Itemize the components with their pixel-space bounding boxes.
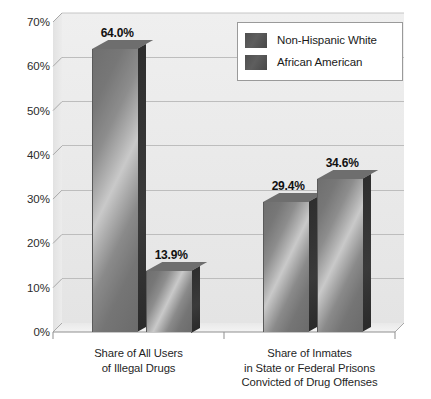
legend-item-label: Non-Hispanic White bbox=[277, 34, 377, 46]
legend-swatch-icon bbox=[245, 55, 267, 70]
x-axis-label-share-of-inmates: Share of Inmates in State or Federal Pri… bbox=[224, 346, 395, 390]
legend-item-african-american[interactable]: African American bbox=[245, 51, 395, 73]
bar-front-face bbox=[263, 202, 309, 332]
bar-side-face bbox=[137, 44, 146, 332]
y-tick-label-40: 40% bbox=[27, 149, 50, 161]
bar-white-inmates[interactable]: 29.4% bbox=[263, 202, 308, 332]
x-axis-label-line: Share of All Users bbox=[53, 346, 224, 361]
x-axis-label-share-of-all-users: Share of All Users of Illegal Drugs bbox=[53, 346, 224, 375]
bar-value-label: 64.0% bbox=[101, 26, 134, 40]
y-axis: 70% 60% 50% 40% 30% 20% 10% 0% bbox=[0, 0, 60, 340]
legend-swatch-icon bbox=[245, 33, 267, 48]
y-tick-label-30: 30% bbox=[27, 193, 50, 205]
x-axis-label-line: Share of Inmates bbox=[224, 346, 395, 361]
legend: Non-Hispanic White African American bbox=[237, 22, 403, 81]
bar-chart: 70% 60% 50% 40% 30% 20% 10% 0% 64.0% 13.… bbox=[0, 0, 431, 399]
x-axis-label-line: of Illegal Drugs bbox=[53, 361, 224, 376]
x-axis-label-line: Convicted of Drug Offenses bbox=[224, 375, 395, 390]
bar-front-face bbox=[317, 179, 363, 332]
y-tick-label-0: 0% bbox=[33, 326, 50, 338]
bar-front-face bbox=[92, 49, 138, 332]
x-axis-label-line: in State or Federal Prisons bbox=[224, 361, 395, 376]
bar-side-face bbox=[362, 174, 371, 332]
bar-black-users[interactable]: 13.9% bbox=[146, 271, 191, 333]
bar-value-label: 29.4% bbox=[272, 179, 305, 193]
y-tick-label-50: 50% bbox=[27, 105, 50, 117]
bar-black-inmates[interactable]: 34.6% bbox=[317, 179, 362, 332]
bar-front-face bbox=[146, 271, 192, 333]
legend-item-label: African American bbox=[277, 56, 362, 68]
x-axis-labels: Share of All Users of Illegal Drugs Shar… bbox=[0, 340, 431, 399]
y-tick-label-60: 60% bbox=[27, 60, 50, 72]
bar-side-face bbox=[191, 266, 200, 332]
y-tick-label-70: 70% bbox=[27, 16, 50, 28]
legend-item-non-hispanic-white[interactable]: Non-Hispanic White bbox=[245, 29, 395, 51]
bar-value-label: 13.9% bbox=[155, 248, 188, 262]
bar-side-face bbox=[308, 197, 317, 332]
y-tick-label-20: 20% bbox=[27, 237, 50, 249]
bar-white-users[interactable]: 64.0% bbox=[92, 49, 137, 332]
y-tick-label-10: 10% bbox=[27, 282, 50, 294]
bar-value-label: 34.6% bbox=[326, 156, 359, 170]
